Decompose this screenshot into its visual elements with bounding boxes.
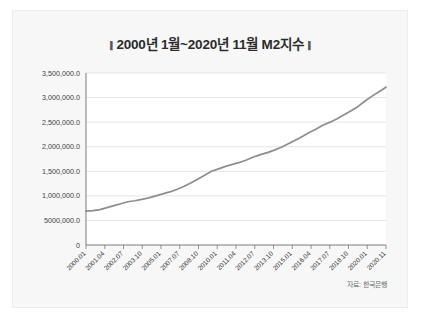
x-axis-tick-label: 2013.10 xyxy=(252,250,274,272)
x-axis-tick-label: 2020.01 xyxy=(346,250,368,272)
x-axis-ticks xyxy=(86,245,386,249)
x-axis-tick-label: 2015.01 xyxy=(271,250,293,272)
x-axis-labels: 2000.012001.042002.072003.102005.012007.… xyxy=(65,250,387,272)
y-axis-tick-label: 3,500,000.0 xyxy=(42,69,80,78)
y-axis-tick-label: 2,500,000.0 xyxy=(42,118,80,127)
y-axis-tick-label: 1,500,000.0 xyxy=(42,167,80,176)
x-axis-tick-label: 2012.07 xyxy=(234,250,256,272)
chart-plot-area: 3,500,000.03,000,000.02,500,000.02,000,0… xyxy=(13,11,409,309)
line-chart: 3,500,000.03,000,000.02,500,000.02,000,0… xyxy=(13,11,409,309)
x-axis-tick-label: 2017.07 xyxy=(309,250,331,272)
y-axis-tick-label: 2,000,000.0 xyxy=(42,142,80,151)
x-axis-tick-label: 2020.11 xyxy=(365,250,387,272)
x-axis-tick-label: 2018.10 xyxy=(327,250,349,272)
source-note: 자료: 한국은행 xyxy=(347,279,387,289)
y-axis-tick-label: 1,000,000.0 xyxy=(42,191,80,200)
x-axis-tick-label: 2001.04 xyxy=(84,250,106,272)
y-axis-tick-label: 0 xyxy=(76,241,80,250)
x-axis-tick-label: 2007.07 xyxy=(159,250,181,272)
x-axis-tick-label: 2016.04 xyxy=(290,250,312,272)
x-axis-tick-label: 2008.10 xyxy=(177,250,199,272)
y-axis-tick-label: 5000,000.0 xyxy=(44,216,80,225)
x-axis-tick-label: 2005.01 xyxy=(140,250,162,272)
x-axis-tick-label: 2003.10 xyxy=(121,250,143,272)
plot-background xyxy=(86,73,386,245)
chart-card: ▮2000년 1월~2020년 11월 M2지수▮ 3,500,000.03,0… xyxy=(12,10,408,308)
y-axis-tick-label: 3,000,000.0 xyxy=(42,93,80,102)
x-axis-tick-label: 2000.01 xyxy=(65,250,87,272)
x-axis-tick-label: 2010.01 xyxy=(196,250,218,272)
y-axis-labels: 3,500,000.03,000,000.02,500,000.02,000,0… xyxy=(42,69,80,250)
x-axis-tick-label: 2002.07 xyxy=(102,250,124,272)
